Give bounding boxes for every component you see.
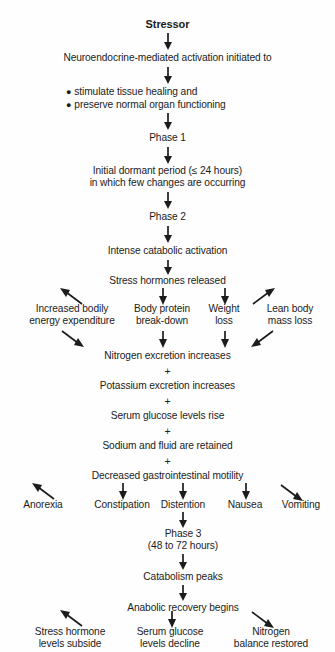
node-intense-catabolic-activation: Intense catabolic activation <box>0 245 335 257</box>
arrow-gi-to-anorexia <box>28 481 58 501</box>
arrow-dormant-to-phase-2 <box>162 192 174 210</box>
plus-separator-3: + <box>0 426 335 437</box>
node-serum-glucose-levels-rise: Serum glucose levels rise <box>0 410 335 422</box>
arrow-weight-to-nitrogen <box>219 331 231 349</box>
arrow-phase-2-to-catabolic <box>162 226 174 244</box>
arrow-lean-to-nitrogen <box>247 330 277 350</box>
node-increased-energy-expenditure: Increased bodily energy expenditure <box>8 303 136 328</box>
node-stress-hormone-levels-subside: Stress hormone levels subside <box>8 626 132 651</box>
node-vomiting: Vomiting <box>270 499 332 511</box>
arrow-phase-1-to-dormant <box>162 147 174 165</box>
node-phase-3: Phase 3 (48 to 72 hours) <box>48 528 318 553</box>
arrow-catabolism-to-anabolic-recovery <box>177 585 189 602</box>
arrow-stressor-to-neuroendocrine <box>162 33 174 51</box>
node-anorexia: Anorexia <box>8 499 78 511</box>
arrow-distention-to-phase-3 <box>177 512 189 529</box>
bullet-item-stimulate-healing: ●stimulate tissue healing and <box>66 86 286 99</box>
node-catabolism-peaks: Catabolism peaks <box>48 571 318 583</box>
arrow-bullets-to-phase-1 <box>162 113 174 131</box>
node-stressor: Stressor <box>0 18 335 30</box>
plus-separator-1: + <box>0 366 335 377</box>
arrow-energy-to-nitrogen <box>58 330 88 350</box>
stress-response-flowchart: Stressor Neuroendocrine-mediated activat… <box>0 0 335 652</box>
arrow-catabolic-to-hormones <box>162 260 174 276</box>
arrow-neuroendocrine-to-bullets <box>162 67 174 85</box>
arrow-gi-to-vomiting <box>277 481 307 501</box>
node-initial-dormant-period: Initial dormant period (≤ 24 hours) in w… <box>0 165 335 190</box>
bullet-item-preserve-organ: ●preserve normal organ functioning <box>66 99 286 112</box>
node-weight-loss: Weight loss <box>196 303 252 328</box>
node-serum-glucose-levels-decline: Serum glucose levels decline <box>118 626 222 651</box>
arrow-protein-to-nitrogen <box>157 331 169 349</box>
node-nitrogen-excretion-increases: Nitrogen excretion increases <box>0 350 335 362</box>
plus-separator-2: + <box>0 396 335 407</box>
node-nausea: Nausea <box>214 499 276 511</box>
node-distention: Distention <box>147 499 219 511</box>
node-lean-body-mass-loss: Lean body mass loss <box>252 303 328 328</box>
arrow-phase-3-to-catabolism-peaks <box>177 554 189 571</box>
plus-separator-4: + <box>0 456 335 467</box>
node-nitrogen-balance-restored: Nitrogen balance restored <box>212 626 330 651</box>
node-phase-2: Phase 2 <box>0 211 335 223</box>
node-phase-1: Phase 1 <box>0 132 335 144</box>
node-neuroendocrine-activation: Neuroendocrine-mediated activation initi… <box>0 52 335 64</box>
node-potassium-excretion-increases: Potassium excretion increases <box>0 380 335 392</box>
node-sodium-and-fluid-retained: Sodium and fluid are retained <box>0 440 335 452</box>
node-body-protein-breakdown: Body protein break-down <box>122 303 202 328</box>
node-bullet-list: ●stimulate tissue healing and ●preserve … <box>66 86 286 111</box>
node-stress-hormones-released: Stress hormones released <box>0 275 335 287</box>
